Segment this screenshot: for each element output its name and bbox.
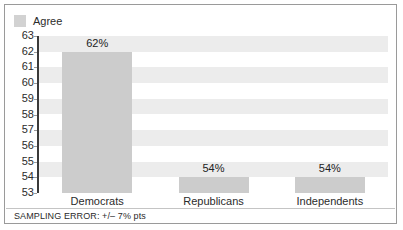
y-axis-tick-mark [34,36,37,37]
y-axis-tick-label: 56 [14,140,34,151]
chart-figure: Agree 6362616059585756555453 62%54%54% D… [4,4,397,224]
x-axis-label-independents: Independents [270,195,390,208]
y-axis-tick-label: 55 [14,156,34,167]
plot-wrapper: 6362616059585756555453 62%54%54% [14,36,388,193]
x-axis-label-democrats: Democrats [37,195,157,208]
legend-label: Agree [33,15,62,27]
bar-value-label: 54% [290,163,370,174]
y-axis-tick-label: 60 [14,77,34,88]
bar-independents [295,177,365,193]
y-axis-tick-mark [34,130,37,131]
y-axis-tick-mark [34,115,37,116]
y-axis-tick-mark [34,177,37,178]
y-axis-tick-label: 54 [14,171,34,182]
y-axis-tick-mark [34,67,37,68]
y-axis-tick-mark [34,52,37,53]
y-axis-tick-mark [34,99,37,100]
bar-value-label: 62% [57,38,137,49]
y-axis-tick-label: 63 [14,30,34,41]
y-axis-tick-label: 59 [14,93,34,104]
y-axis-tick-mark [34,83,37,84]
bar-republicans [179,177,249,193]
y-axis-tick-label: 53 [14,187,34,198]
plot-area: 62%54%54% [39,36,388,193]
y-axis-tick-label: 57 [14,124,34,135]
y-axis-tick-mark [34,146,37,147]
y-axis-tick-label: 58 [14,109,34,120]
bar-value-label: 54% [174,163,254,174]
y-axis-tick-mark [34,162,37,163]
chart-legend: Agree [14,13,62,28]
footer-divider [6,208,395,209]
legend-swatch-icon [14,15,26,27]
sampling-error-note: SAMPLING ERROR: +/– 7% pts [14,211,146,222]
y-axis-tick-label: 61 [14,61,34,72]
bar-democrats [62,52,132,193]
y-axis-tick-label: 62 [14,46,34,57]
y-axis-tick-labels: 6362616059585756555453 [14,36,34,193]
x-axis-label-republicans: Republicans [154,195,274,208]
y-axis-tick-mark [34,193,37,194]
